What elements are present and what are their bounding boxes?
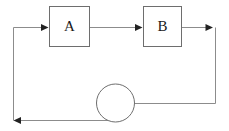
arrowhead-into-left-rail — [14, 117, 22, 124]
node-block-b[interactable]: B — [144, 7, 182, 47]
block-a-label: A — [64, 18, 75, 34]
node-layer: A B — [50, 7, 182, 123]
block-diagram-canvas: A B — [0, 0, 229, 131]
arrowhead-into-block-a — [41, 24, 49, 31]
summing-junction-circle[interactable] — [97, 84, 135, 122]
block-diagram-svg: A B — [0, 0, 229, 131]
node-block-a[interactable]: A — [50, 7, 90, 47]
node-summing-junction[interactable] — [97, 84, 135, 122]
block-b-label: B — [157, 18, 167, 34]
arrowhead-into-block-b — [135, 24, 143, 31]
arrowhead-into-right-rail — [206, 24, 214, 31]
